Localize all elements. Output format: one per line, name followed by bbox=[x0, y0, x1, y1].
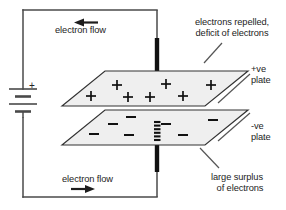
leader-electrons-repelled bbox=[204, 43, 222, 63]
electrons-repelled-label-line1: electrons repelled, bbox=[178, 17, 286, 28]
electron-flow-label-top: electron flow bbox=[38, 25, 123, 36]
electron-flow-arrow-bottom bbox=[71, 185, 95, 193]
diagram-canvas: electron flow electron flow electrons re… bbox=[0, 0, 286, 210]
battery-polarity-label: + bbox=[29, 80, 41, 91]
battery-symbol bbox=[9, 89, 37, 118]
large-surplus-label-line2: of electrons bbox=[196, 183, 284, 194]
positive-plate-label-line2: plate bbox=[251, 75, 286, 86]
arrow-head-right bbox=[85, 185, 95, 193]
positive-plate-label-line1: +ve bbox=[251, 64, 286, 75]
negative-plate-label-line1: -ve bbox=[251, 121, 286, 132]
leader-large-surplus bbox=[200, 148, 219, 168]
electrons-repelled-label-line2: deficit of electrons bbox=[178, 28, 286, 39]
large-surplus-label-line1: large surplus bbox=[190, 172, 284, 183]
negative-plate-label-line2: plate bbox=[251, 132, 286, 143]
electron-flow-label-bottom: electron flow bbox=[45, 174, 130, 185]
